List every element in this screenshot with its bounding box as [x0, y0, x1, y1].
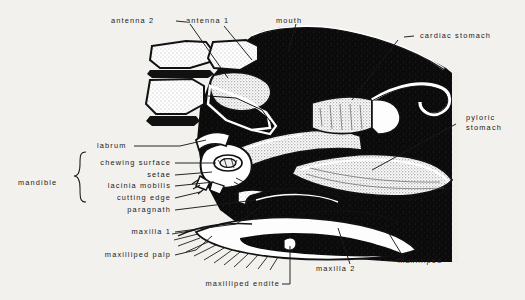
label-cutting-edge: cutting edge: [68, 193, 171, 203]
label-chewing-surface: chewing surface: [68, 158, 171, 168]
label-pyloric-stomach-line2: stomach: [466, 123, 502, 132]
label-cardiac-stomach: cardiac stomach: [420, 31, 491, 41]
label-maxilla-1: maxilla 1: [68, 227, 171, 237]
label-lacinia-mobilis: lacinia mobilis: [68, 181, 171, 191]
label-maxilliped-palp: maxilliped palp: [50, 250, 171, 260]
label-mandible: mandible: [18, 178, 57, 188]
label-antenna-1: antenna 1: [186, 16, 229, 26]
label-paragnath: paragnath: [68, 205, 171, 215]
label-pyloric-stomach: pyloric stomach: [466, 113, 502, 133]
label-maxilliped: maxilliped: [398, 256, 442, 266]
label-maxilla-2: maxilla 2: [316, 264, 356, 274]
label-setae: setae: [68, 170, 171, 180]
label-labrum: labrum: [97, 141, 127, 151]
label-mouth: mouth: [276, 16, 302, 26]
label-maxilliped-endite: maxilliped endite: [170, 279, 280, 289]
label-antenna-2: antenna 2: [111, 16, 154, 26]
label-pyloric-stomach-line1: pyloric: [466, 113, 495, 122]
